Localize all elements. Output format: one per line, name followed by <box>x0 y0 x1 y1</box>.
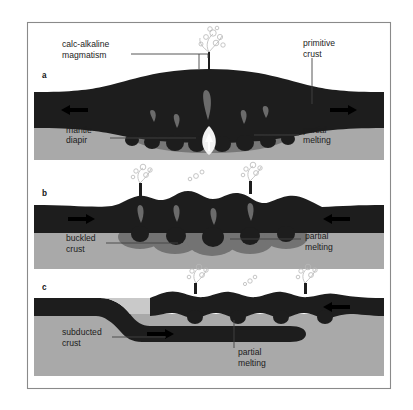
figure-root: a <box>0 0 413 410</box>
panel-a-magmatism-label-line1: calc-alkaline <box>62 39 110 49</box>
panel-a-mantle-diapir-label-line2: diapir <box>66 135 87 145</box>
panel-c-letter: c <box>42 283 47 292</box>
panel-a-letter: a <box>42 71 47 80</box>
panel-a-magmatism-label-line2: magmatism <box>62 50 106 60</box>
panel-a-partial-melting-label-line2: melting <box>303 135 331 145</box>
panel-a-primitive-crust-label-line1: primitive <box>303 38 335 48</box>
panel-b-buckled-crust-label-line2: crust <box>66 244 85 254</box>
panel-b-buckled-crust-label-line1: buckled <box>66 233 96 243</box>
panel-b-letter: b <box>42 189 47 198</box>
panel-c-subducted-crust-label-line1: subducted <box>62 327 102 337</box>
panel-a-primitive-crust-label-line2: crust <box>303 49 322 59</box>
panel-a-partial-melting-label-line1: partial <box>303 125 326 135</box>
panel-c-partial-melting-label-line2: melting <box>238 358 266 368</box>
panel-a-mantle-diapir-label-line1: mantle <box>66 125 92 135</box>
panel-c-partial-melting-label-line1: partial <box>238 347 261 357</box>
panel-b-partial-melting-label-line1: partial <box>305 231 328 241</box>
panel-c-subducted-crust-label-line2: crust <box>62 338 81 348</box>
panel-c-mantle <box>34 314 384 376</box>
geology-diagram: a <box>0 0 413 410</box>
panel-b-partial-melting-label-line2: melting <box>305 242 333 252</box>
